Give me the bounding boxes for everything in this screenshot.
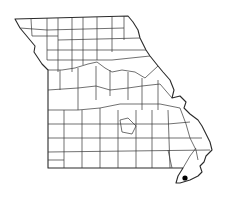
missouri-county-map — [0, 0, 231, 199]
occurrence-dot — [182, 175, 187, 180]
state-outline — [15, 16, 212, 183]
